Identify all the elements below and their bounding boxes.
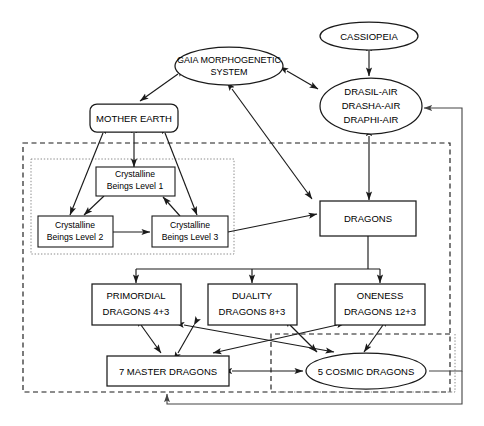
node-oneness-label-line2: DRAGONS 12+3 [344, 306, 416, 317]
node-cassiopeia[interactable]: CASSIOPEIA [320, 22, 418, 50]
node-cb2-label-line1: Crystalline [55, 220, 95, 230]
diagram-canvas: CASSIOPEIA GAIA MORPHOGENETIC SYSTEM DRA… [0, 0, 484, 426]
edge-cb3-dragons [228, 214, 317, 232]
node-primordial-dragons[interactable]: PRIMORDIAL DRAGONS 4+3 [92, 284, 181, 325]
node-primordial-label-line2: DRAGONS 4+3 [103, 306, 170, 317]
node-duality-dragons[interactable]: DUALITY DRAGONS 8+3 [208, 284, 297, 325]
edge-duality-cosmic [290, 325, 317, 352]
node-cosmic-dragons-label: 5 COSMIC DRAGONS [318, 366, 415, 377]
node-cassiopeia-label: CASSIOPEIA [340, 31, 398, 42]
edge-cosmic-drasil-loop [424, 108, 462, 371]
edge-oneness-cosmic [364, 325, 383, 352]
node-gaia-morphogenetic-system[interactable]: GAIA MORPHOGENETIC SYSTEM [175, 47, 283, 85]
edge-cb1-cb2 [84, 196, 104, 215]
node-cb3-label-line1: Crystalline [170, 220, 210, 230]
node-crystalline-beings-level-3[interactable]: Crystalline Beings Level 3 [152, 216, 228, 247]
node-crystalline-beings-level-2[interactable]: Crystalline Beings Level 2 [38, 216, 113, 247]
edge-primordial-cosmic [184, 325, 334, 352]
node-drasil-label-line3: DRAPHI-AIR [344, 114, 399, 125]
node-primordial-label-line1: PRIMORDIAL [106, 290, 165, 301]
node-drasil-label-line2: DRASHA-AIR [342, 100, 401, 111]
node-mother-earth[interactable]: MOTHER EARTH [90, 104, 178, 132]
edge-cb3-cb1 [163, 197, 180, 216]
node-oneness-label-line1: ONENESS [357, 290, 403, 301]
node-drasil-label-line1: DRASIL-AIR [344, 86, 397, 97]
edge-duality-master [178, 325, 194, 353]
node-master-dragons-label: 7 MASTER DRAGONS [119, 366, 217, 377]
node-cb1-label-line2: Beings Level 1 [107, 181, 164, 191]
node-dragons-label: DRAGONS [344, 213, 392, 224]
node-dragons[interactable]: DRAGONS [320, 201, 416, 236]
flow-diagram: CASSIOPEIA GAIA MORPHOGENETIC SYSTEM DRA… [0, 0, 484, 426]
node-mother-earth-label: MOTHER EARTH [96, 113, 172, 124]
node-5-cosmic-dragons[interactable]: 5 COSMIC DRAGONS [306, 353, 426, 389]
node-7-master-dragons[interactable]: 7 MASTER DRAGONS [107, 356, 229, 386]
node-cb1-label-line1: Crystalline [115, 169, 155, 179]
node-cb2-label-line2: Beings Level 2 [47, 232, 104, 242]
node-duality-label-line2: DRAGONS 8+3 [219, 306, 286, 317]
node-drasil-air[interactable]: DRASIL-AIR DRASHA-AIR DRAPHI-AIR [320, 78, 422, 134]
node-gaia-label-line1: GAIA MORPHOGENETIC [177, 55, 282, 65]
node-crystalline-beings-level-1[interactable]: Crystalline Beings Level 1 [96, 167, 175, 196]
node-oneness-dragons[interactable]: ONENESS DRAGONS 12+3 [335, 284, 425, 325]
edge-primordial-master [141, 325, 161, 353]
edge-gaia-drasil [287, 71, 318, 89]
node-cb3-label-line2: Beings Level 3 [162, 232, 219, 242]
edge-gaia-mother [140, 74, 178, 101]
node-duality-label-line1: DUALITY [232, 290, 273, 301]
node-gaia-label-line2: SYSTEM [210, 67, 247, 77]
edge-gaia-dragons [232, 89, 312, 199]
